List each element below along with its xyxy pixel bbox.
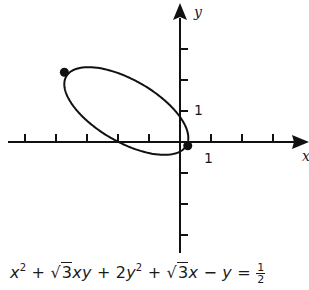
eq-sqrt: √3 [167, 263, 189, 282]
eq-x: x [188, 263, 198, 282]
eq-plus: + [97, 263, 111, 282]
eq-exp: 2 [136, 262, 143, 273]
x-axis-arrow-icon [292, 135, 309, 149]
eq-sqrt: √3 [50, 263, 72, 282]
eq-den: 2 [256, 274, 265, 285]
ellipse-equation: x2 + √3xy + 2y2 + √3x − y = 12 [10, 262, 265, 285]
eq-plus: + [32, 263, 46, 282]
eq-coef: 2 [116, 263, 126, 282]
eq-y: y [222, 263, 232, 282]
y-axis-arrow-icon [173, 3, 187, 20]
sqrt-icon: √ [167, 263, 177, 282]
eq-three: 3 [61, 262, 72, 282]
eq-xy: xy [72, 263, 91, 282]
eq-exp: 2 [20, 262, 27, 273]
ellipse-graph [0, 0, 309, 260]
x-axis-label: x [302, 148, 309, 164]
marked-point [60, 68, 69, 77]
y-tick-label-1: 1 [194, 102, 203, 118]
eq-y: y [126, 263, 136, 282]
marked-point [183, 141, 192, 150]
eq-three: 3 [177, 262, 188, 282]
x-tick-label-1: 1 [204, 150, 213, 166]
sqrt-icon: √ [50, 263, 60, 282]
eq-x: x [10, 263, 20, 282]
eq-minus: − [203, 263, 217, 282]
x-axis [8, 134, 309, 149]
eq-plus: + [148, 263, 162, 282]
eq-equals: = [237, 263, 251, 282]
y-axis-label: y [194, 4, 202, 20]
eq-fraction: 12 [256, 262, 265, 285]
